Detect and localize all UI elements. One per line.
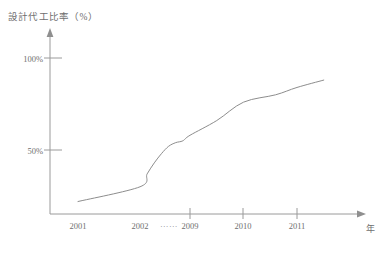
axes-group bbox=[47, 28, 366, 217]
chart-svg bbox=[0, 0, 382, 253]
y-axis-arrow-icon bbox=[47, 28, 54, 37]
x-axis-arrow-icon bbox=[357, 211, 366, 218]
y-tick-marks-group bbox=[44, 58, 62, 150]
data-series-line bbox=[78, 80, 324, 201]
chart-container: 設計代工比率（%） 100% 50% 2001 2002 …… 2009 201… bbox=[0, 0, 382, 253]
